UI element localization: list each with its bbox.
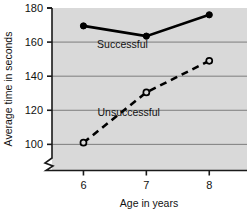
x-axis-title: Age in years xyxy=(120,197,178,209)
series-label-unsuccessful: Unsuccessful xyxy=(98,106,160,118)
chart-container: 100120140160180 678 SuccessfulUnsuccessf… xyxy=(0,0,247,215)
y-tick-label: 140 xyxy=(25,70,43,82)
data-point-unsuccessful xyxy=(206,58,212,64)
x-tick-label: 7 xyxy=(143,179,149,191)
y-tick-label: 160 xyxy=(25,36,43,48)
data-point-successful xyxy=(80,23,86,29)
x-tick-label: 8 xyxy=(206,179,212,191)
line-chart: 100120140160180 678 SuccessfulUnsuccessf… xyxy=(0,0,247,215)
x-tick-label: 6 xyxy=(80,179,86,191)
y-axis-title: Average time in seconds xyxy=(2,32,14,147)
y-axis-tick-labels: 100120140160180 xyxy=(25,2,43,150)
x-axis-tick-labels: 678 xyxy=(80,179,212,191)
series-label-successful: Successful xyxy=(97,38,148,50)
y-tick-label: 180 xyxy=(25,2,43,14)
data-point-unsuccessful xyxy=(80,140,86,146)
y-axis-line xyxy=(45,8,53,171)
data-point-successful xyxy=(206,12,212,18)
y-tick-label: 120 xyxy=(25,104,43,116)
data-point-unsuccessful xyxy=(143,89,149,95)
y-tick-label: 100 xyxy=(25,138,43,150)
